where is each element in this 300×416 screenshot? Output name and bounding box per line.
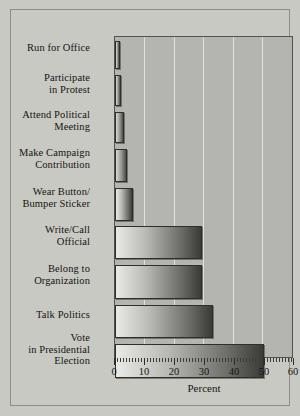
x-axis-ticks [114,358,294,365]
xtick-label-0: 0 [101,366,127,378]
category-label-wear-button-bumper-sticker: Wear Button/ Bumper Sticker [22,186,90,209]
category-label-run-for-office: Run for Office [27,42,90,54]
bar-run-for-office[interactable] [115,41,120,69]
bar-attend-political-meeting[interactable] [115,112,124,143]
category-label-make-campaign-contribution: Make Campaign Contribution [19,147,90,170]
category-label-talk-politics: Talk Politics [36,309,90,321]
category-label-belong-to-organization: Belong to Organization [34,263,90,286]
bar-talk-politics[interactable] [115,305,213,338]
gridline-50 [262,37,263,357]
xtick-label-20: 20 [161,366,187,378]
figure-frame: Run for Office Participate in Protest At… [10,9,290,406]
xtick-label-50: 50 [251,366,277,378]
bar-make-campaign-contribution[interactable] [115,149,127,182]
gridline-40 [233,37,234,357]
category-label-attend-political-meeting: Attend Political Meeting [22,109,90,132]
plot-area [114,36,293,358]
xtick-label-10: 10 [131,366,157,378]
category-label-participate-in-protest: Participate in Protest [44,72,90,95]
x-axis-title: Percent [114,382,294,394]
bar-belong-to-organization[interactable] [115,265,202,299]
category-label-vote-in-presidential-election: Vote in Presidential Election [28,332,90,367]
bar-chart-figure: Run for Office Participate in Protest At… [0,0,300,416]
xtick-label-40: 40 [221,366,247,378]
xtick-label-60: 60 [280,366,300,378]
bar-write-call-official[interactable] [115,226,202,259]
bar-wear-button-bumper-sticker[interactable] [115,188,133,221]
category-label-write-call-official: Write/Call Official [45,224,90,247]
bar-participate-in-protest[interactable] [115,75,121,106]
xtick-label-30: 30 [191,366,217,378]
